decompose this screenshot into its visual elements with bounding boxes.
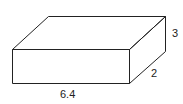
height-label: 3	[172, 27, 178, 39]
top-face	[13, 17, 166, 50]
length-label: 6.4	[60, 88, 75, 100]
right-face	[130, 17, 166, 84]
front-face	[13, 50, 130, 84]
box-diagram: 3 2 6.4	[0, 0, 183, 104]
depth-label: 2	[151, 67, 157, 79]
